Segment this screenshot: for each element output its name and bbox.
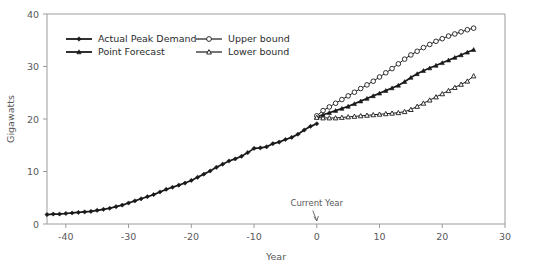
legend-label: Upper bound [228, 33, 290, 44]
data-point-marker [453, 32, 458, 37]
data-point-marker [396, 62, 401, 67]
data-point-marker [465, 27, 470, 32]
data-point-marker [427, 42, 432, 47]
legend-label: Lower bound [228, 46, 289, 57]
x-tick-label: -40 [58, 231, 74, 242]
current-year-annotation-label: Current Year [290, 198, 343, 208]
data-point-marker [365, 83, 370, 88]
y-tick-label: 30 [27, 61, 39, 72]
data-point-marker [421, 45, 426, 50]
x-tick-label: 20 [436, 231, 448, 242]
x-tick-label: 10 [373, 231, 385, 242]
x-tick-label: -20 [184, 231, 200, 242]
y-axis-title: Gigawatts [5, 95, 16, 143]
data-point-marker [207, 37, 212, 42]
chart-root: -40-30-20-100102030 010203040 Year Gigaw… [0, 0, 538, 277]
legend-label: Point Forecast [98, 46, 165, 57]
data-point-marker [390, 66, 395, 71]
data-point-marker [383, 71, 388, 76]
data-point-marker [446, 34, 451, 39]
data-point-marker [471, 26, 476, 31]
legend-label: Actual Peak Demand [98, 33, 197, 44]
data-point-marker [440, 36, 445, 41]
x-tick-label: -10 [246, 231, 262, 242]
y-tick-label: 40 [27, 9, 39, 20]
y-tick-label: 20 [27, 114, 39, 125]
data-point-marker [459, 30, 464, 35]
data-point-marker [333, 101, 338, 106]
data-point-marker [409, 53, 414, 58]
data-point-marker [321, 108, 326, 113]
data-point-marker [352, 90, 357, 95]
data-point-marker [371, 79, 376, 84]
peak-demand-forecast-chart: -40-30-20-100102030 010203040 Year Gigaw… [0, 0, 538, 277]
data-point-marker [346, 94, 351, 99]
data-point-marker [415, 49, 420, 54]
y-tick-label: 0 [33, 219, 39, 230]
data-point-marker [340, 97, 345, 102]
data-point-marker [402, 57, 407, 62]
x-tick-label: -30 [121, 231, 137, 242]
x-tick-label: 30 [499, 231, 511, 242]
data-point-marker [434, 39, 439, 44]
data-point-marker [377, 75, 382, 80]
data-point-marker [327, 105, 332, 110]
y-tick-label: 10 [27, 166, 39, 177]
x-axis-title: Year [265, 251, 286, 262]
x-tick-label: 0 [314, 231, 320, 242]
data-point-marker [358, 86, 363, 91]
